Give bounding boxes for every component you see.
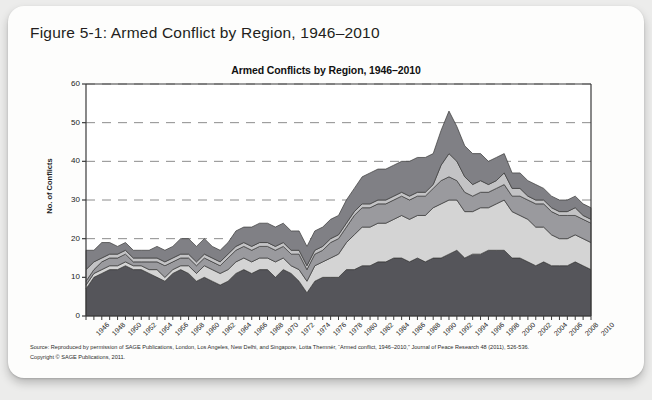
source-line-1: Source: Reproduced by permission of SAGE… — [30, 344, 529, 350]
figure-card: Figure 5-1: Armed Conflict by Region, 19… — [8, 6, 644, 378]
stacked-area-chart — [8, 6, 644, 378]
source-line-2: Copyright © SAGE Publications, 2011. — [30, 354, 125, 360]
source-note: Source: Reproduced by permission of SAGE… — [30, 343, 630, 363]
plot-area: No. of Conflicts 0102030405060 194619481… — [8, 6, 644, 378]
page-root: Figure 5-1: Armed Conflict by Region, 19… — [0, 0, 652, 400]
